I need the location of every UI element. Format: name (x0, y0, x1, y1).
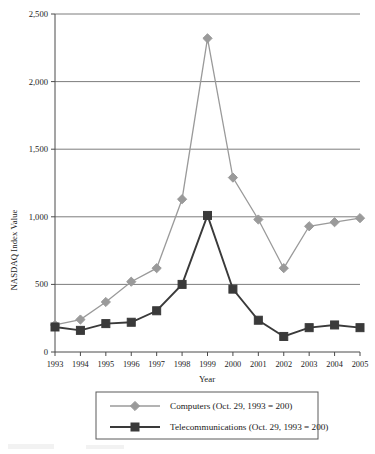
x-tick-label: 1996 (123, 360, 140, 369)
data-point-marker (305, 222, 314, 231)
data-point-marker (355, 214, 364, 223)
series-computers (50, 34, 364, 330)
data-point-marker (204, 211, 212, 219)
y-tick-labels: 05001,0001,5002,0002,500 (29, 9, 48, 357)
y-tick-label: 0 (44, 347, 48, 357)
data-point-marker (305, 324, 313, 332)
x-axis-title: Year (199, 374, 215, 384)
scan-artifact (8, 444, 54, 449)
chart-svg: 05001,0001,5002,0002,500 199319941995199… (0, 0, 375, 454)
x-tick-label: 2005 (352, 360, 369, 369)
legend-label: Computers (Oct. 29, 1993 = 200) (170, 401, 292, 411)
x-tick-label: 1995 (98, 360, 115, 369)
data-point-marker (254, 215, 263, 224)
y-tick-label: 1,500 (29, 144, 48, 154)
y-tick-label: 1,000 (29, 212, 48, 222)
data-point-marker (203, 34, 212, 43)
x-tick-label: 1998 (174, 360, 191, 369)
data-point-marker (254, 316, 262, 324)
x-axis (55, 352, 360, 356)
y-axis-title: NASDAQ Index Value (9, 209, 19, 290)
data-point-marker (228, 173, 237, 182)
data-point-marker (127, 318, 135, 326)
legend-label: Telecommunications (Oct. 29, 1993 = 200) (170, 422, 328, 432)
data-point-marker (130, 401, 139, 410)
data-point-marker (102, 320, 110, 328)
data-point-marker (331, 321, 339, 329)
x-tick-label: 2004 (326, 360, 343, 369)
x-tick-label: 2002 (275, 360, 292, 369)
data-point-marker (131, 423, 139, 431)
x-tick-label: 2003 (301, 360, 318, 369)
data-point-marker (152, 264, 161, 273)
data-point-marker (76, 326, 84, 334)
data-point-marker (229, 285, 237, 293)
x-tick-label: 1993 (47, 360, 64, 369)
x-tick-labels: 1993199419951996199719981999200020012002… (47, 360, 369, 369)
series-line (55, 215, 360, 336)
y-tick-label: 2,500 (29, 9, 48, 19)
series-telecommunications (51, 211, 364, 340)
data-point-marker (51, 323, 59, 331)
data-point-marker (356, 324, 364, 332)
data-point-marker (178, 280, 186, 288)
scan-artifact (86, 445, 124, 449)
legend: Computers (Oct. 29, 1993 = 200)Telecommu… (96, 392, 328, 439)
grid-lines (55, 14, 360, 284)
x-tick-label: 2001 (250, 360, 267, 369)
y-axis (51, 14, 55, 352)
data-point-marker (177, 195, 186, 204)
data-point-marker (76, 315, 85, 324)
nasdaq-index-chart: 05001,0001,5002,0002,500 199319941995199… (0, 0, 375, 454)
x-tick-label: 1999 (199, 360, 216, 369)
data-point-marker (280, 332, 288, 340)
data-point-marker (279, 264, 288, 273)
y-tick-label: 2,000 (29, 77, 48, 87)
data-point-marker (153, 307, 161, 315)
x-tick-label: 1997 (148, 360, 165, 369)
x-tick-label: 2000 (225, 360, 242, 369)
data-point-marker (330, 218, 339, 227)
x-tick-label: 1994 (72, 360, 89, 369)
y-tick-label: 500 (35, 279, 48, 289)
